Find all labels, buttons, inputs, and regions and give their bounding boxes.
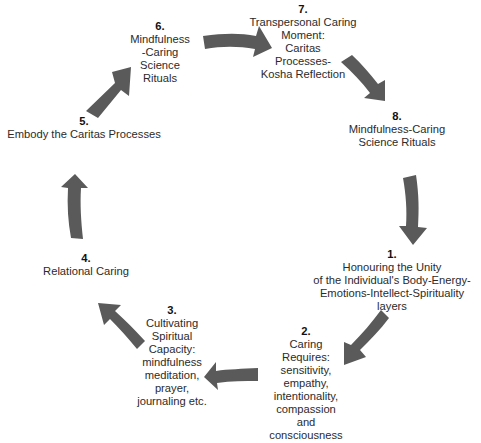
arrow-4-to-5-icon bbox=[61, 174, 88, 239]
step-number: 2. bbox=[264, 325, 348, 338]
step-1-node: 1. Honouring the Unity of the Individual… bbox=[306, 248, 478, 313]
step-6-node: 6. Mindfulness -Caring Science Rituals bbox=[118, 20, 202, 85]
step-label: Caring Requires: sensitivity, empathy, i… bbox=[264, 338, 348, 442]
arrow-1-to-2-icon bbox=[344, 310, 389, 365]
step-7-node: 7. Transpersonal Caring Moment: Caritas … bbox=[244, 3, 362, 81]
step-number: 8. bbox=[338, 110, 456, 123]
step-label: Relational Caring bbox=[34, 265, 138, 278]
step-number: 7. bbox=[244, 3, 362, 16]
caring-cycle-diagram: 6. Mindfulness -Caring Science Rituals 7… bbox=[0, 0, 481, 443]
step-number: 5. bbox=[4, 115, 164, 128]
arrow-8-to-1-icon bbox=[399, 175, 427, 245]
step-label: Mindfulness -Caring Science Rituals bbox=[118, 33, 202, 85]
arrow-2-to-3-icon bbox=[204, 362, 258, 390]
step-label: Transpersonal Caring Moment: Caritas Pro… bbox=[244, 16, 362, 81]
step-2-node: 2. Caring Requires: sensitivity, empathy… bbox=[264, 325, 348, 442]
step-number: 6. bbox=[118, 20, 202, 33]
step-number: 1. bbox=[306, 248, 478, 261]
step-8-node: 8. Mindfulness-Caring Science Rituals bbox=[338, 110, 456, 149]
step-4-node: 4. Relational Caring bbox=[34, 252, 138, 278]
step-label: Embody the Caritas Processes bbox=[4, 128, 164, 141]
step-3-node: 3. Cultivating Spiritual Capacity: mindf… bbox=[132, 304, 212, 408]
step-number: 3. bbox=[132, 304, 212, 317]
step-label: Honouring the Unity of the Individual's … bbox=[306, 261, 478, 313]
cycle-arrows bbox=[0, 0, 481, 443]
step-5-node: 5. Embody the Caritas Processes bbox=[4, 115, 164, 141]
step-number: 4. bbox=[34, 252, 138, 265]
step-label: Mindfulness-Caring Science Rituals bbox=[338, 123, 456, 149]
step-label: Cultivating Spiritual Capacity: mindfuln… bbox=[132, 317, 212, 408]
